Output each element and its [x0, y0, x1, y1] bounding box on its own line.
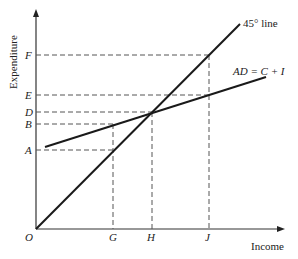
y-tick-a: A [24, 144, 32, 156]
origin-label: O [25, 231, 33, 243]
y-axis-label: Expenditure [7, 35, 19, 89]
y-tick-b: B [25, 118, 32, 130]
y-tick-d: D [24, 106, 33, 118]
line-45-label: 45° line [243, 17, 278, 29]
line-45-degree [36, 24, 240, 229]
y-axis-arrow-icon [33, 9, 39, 17]
keynesian-cross-diagram: Expenditure Income O 45° line AD = C + I… [0, 0, 298, 259]
ad-label: AD = C + I [232, 65, 286, 77]
x-tick-j: J [205, 231, 211, 243]
x-tick-g: G [109, 231, 117, 243]
x-axis-label: Income [251, 240, 284, 252]
x-axis-arrow-icon [277, 226, 285, 232]
y-tick-e: E [24, 89, 32, 101]
y-tick-f: F [24, 49, 32, 61]
x-tick-h: H [146, 231, 156, 243]
